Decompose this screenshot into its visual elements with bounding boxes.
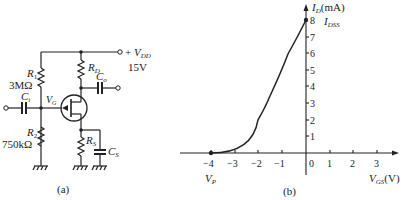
vg-label: VG xyxy=(46,94,57,106)
x-tick-label: 1 xyxy=(327,158,332,169)
y-axis-arrow-icon xyxy=(304,4,309,11)
jfet-symbol xyxy=(61,88,87,130)
resistor-r2 xyxy=(38,127,44,146)
ground-icon xyxy=(73,166,88,170)
input-terminal xyxy=(4,106,8,110)
y-tick-label: 6 xyxy=(310,48,315,59)
y-axis-label: ID(mA) xyxy=(311,1,345,15)
output-terminal xyxy=(116,86,120,90)
transfer-curve xyxy=(211,20,306,153)
circuit-diagram: + VDD 15V R1 3MΩ Ci VG R2 750kΩ RD Co RS… xyxy=(2,46,151,196)
y-tick-label: 5 xyxy=(310,65,315,76)
vp-point xyxy=(209,151,213,155)
figure: + VDD 15V R1 3MΩ Ci VG R2 750kΩ RD Co RS… xyxy=(0,0,402,200)
y-tick-label: 2 xyxy=(310,115,315,126)
vp-label: VP xyxy=(205,172,217,186)
y-tick-label: 1 xyxy=(310,131,315,142)
rs-label: RS xyxy=(85,134,97,148)
idss-point xyxy=(304,18,308,22)
x-tick-label: −1 xyxy=(274,158,285,169)
x-tick-label: −2 xyxy=(251,158,262,169)
transfer-characteristic-graph: −4 −3 −2 −1 0 1 2 3 1 2 3 4 5 6 7 8 ID(m… xyxy=(180,1,400,198)
y-tick-label: 7 xyxy=(310,32,315,43)
r2-value: 750kΩ xyxy=(2,138,32,150)
y-tick-label: 3 xyxy=(310,98,315,109)
vdd-label: + VDD xyxy=(125,46,151,60)
resistor-rd xyxy=(78,60,84,79)
x-tick-label: −3 xyxy=(227,158,238,169)
x-tick-label: −4 xyxy=(203,158,214,169)
x-tick-label: 2 xyxy=(350,158,355,169)
cs-label: CS xyxy=(108,145,119,159)
vdd-terminal xyxy=(118,50,122,54)
ci-label: Ci xyxy=(21,90,30,104)
x-tick-label: 0 xyxy=(309,158,314,169)
y-tick-label: 8 xyxy=(310,15,315,26)
caption-b: (b) xyxy=(283,185,296,198)
ground-icon xyxy=(92,166,107,170)
resistor-r1 xyxy=(38,68,44,87)
y-tick-label: 4 xyxy=(310,81,315,92)
x-axis-label: VGS(V) xyxy=(369,172,400,186)
idss-label: IDSS xyxy=(323,15,340,29)
caption-a: (a) xyxy=(57,183,70,196)
x-axis-arrow-icon xyxy=(392,151,399,156)
ground-icon xyxy=(33,166,48,170)
co-label: Co xyxy=(96,70,107,84)
resistor-rs xyxy=(78,137,84,156)
x-tick-label: 3 xyxy=(374,158,379,169)
vdd-value: 15V xyxy=(128,61,147,73)
